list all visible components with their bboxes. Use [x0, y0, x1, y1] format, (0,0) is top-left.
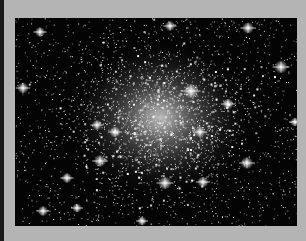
star-cluster-image — [15, 18, 297, 226]
star-field — [15, 18, 297, 226]
cluster-core — [65, 38, 255, 198]
left-edge-strip — [0, 0, 4, 241]
